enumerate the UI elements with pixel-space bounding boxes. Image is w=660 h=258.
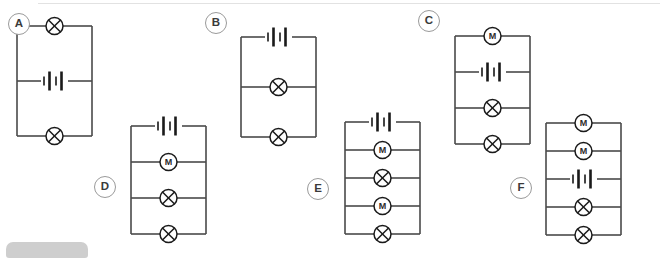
circuit-b[interactable]	[227, 23, 330, 151]
circuit-d[interactable]: M	[117, 112, 220, 248]
battery-symbol	[481, 63, 501, 82]
lamp-symbol	[160, 226, 177, 243]
svg-text:M: M	[165, 157, 173, 167]
circuit-label-f[interactable]: F	[510, 177, 532, 199]
circuit-label-text: C	[425, 15, 433, 27]
motor-symbol: M	[160, 154, 177, 171]
battery-symbol	[157, 117, 177, 136]
top-divider-rule	[38, 3, 660, 4]
lamp-symbol	[484, 136, 501, 153]
lamp-symbol	[575, 227, 592, 244]
lamp-symbol	[484, 100, 501, 117]
svg-text:M: M	[379, 201, 387, 211]
circuit-c[interactable]: M	[441, 22, 544, 158]
circuit-label-b[interactable]: B	[205, 12, 227, 34]
circuit-label-e[interactable]: E	[307, 178, 329, 200]
lamp-symbol	[270, 79, 287, 96]
lamp-symbol	[374, 226, 391, 243]
circuit-f[interactable]: MM	[532, 109, 635, 249]
lamp-symbol	[575, 199, 592, 216]
circuit-e[interactable]: MM	[331, 108, 434, 248]
lamp-symbol	[374, 170, 391, 187]
circuit-label-c[interactable]: C	[418, 10, 440, 32]
motor-symbol: M	[575, 143, 592, 160]
battery-symbol	[572, 170, 592, 189]
lamp-symbol	[46, 128, 63, 145]
motor-symbol: M	[575, 115, 592, 132]
circuit-label-text: B	[212, 17, 220, 29]
svg-text:M: M	[580, 146, 588, 156]
svg-text:M: M	[580, 118, 588, 128]
circuit-label-text: F	[517, 182, 524, 194]
svg-text:M: M	[379, 145, 387, 155]
motor-symbol: M	[484, 28, 501, 45]
battery-symbol	[267, 28, 287, 47]
circuit-label-a[interactable]: A	[8, 13, 30, 35]
lamp-symbol	[46, 18, 63, 35]
circuit-label-text: E	[314, 183, 322, 195]
lamp-symbol	[270, 129, 287, 146]
circuit-label-d[interactable]: D	[94, 176, 116, 198]
battery-symbol	[43, 72, 63, 91]
lamp-symbol	[160, 190, 177, 207]
battery-symbol	[371, 113, 391, 132]
circuit-label-text: A	[15, 18, 23, 30]
motor-symbol: M	[374, 198, 391, 215]
circuit-label-text: D	[101, 181, 109, 193]
bottom-ui-chip[interactable]	[6, 242, 88, 258]
svg-text:M: M	[489, 31, 497, 41]
motor-symbol: M	[374, 142, 391, 159]
